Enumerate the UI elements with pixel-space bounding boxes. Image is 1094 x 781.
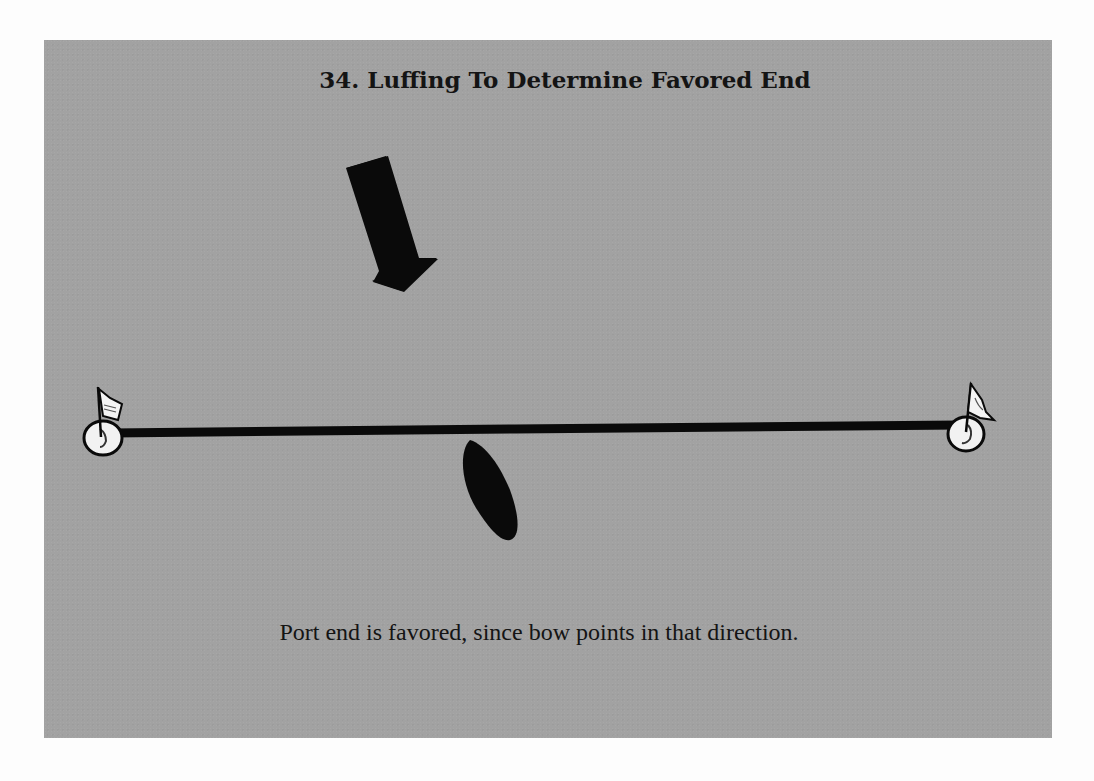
start-line [112, 425, 960, 433]
sailing-diagram [0, 0, 1094, 781]
figure-caption: Port end is favored, since bow points in… [0, 619, 1078, 646]
wind-arrow-icon [346, 156, 438, 292]
port-mark-icon [84, 387, 122, 455]
page: 34. Luffing To Determine Favored End [0, 0, 1094, 781]
starboard-mark-icon [948, 383, 994, 451]
boat-icon [463, 440, 518, 540]
